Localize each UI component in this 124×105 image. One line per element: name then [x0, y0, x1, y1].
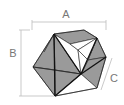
- polyhedron-diagram: A B C: [0, 0, 124, 105]
- label-a: A: [62, 8, 70, 20]
- label-c: C: [110, 72, 118, 84]
- label-b: B: [9, 47, 16, 59]
